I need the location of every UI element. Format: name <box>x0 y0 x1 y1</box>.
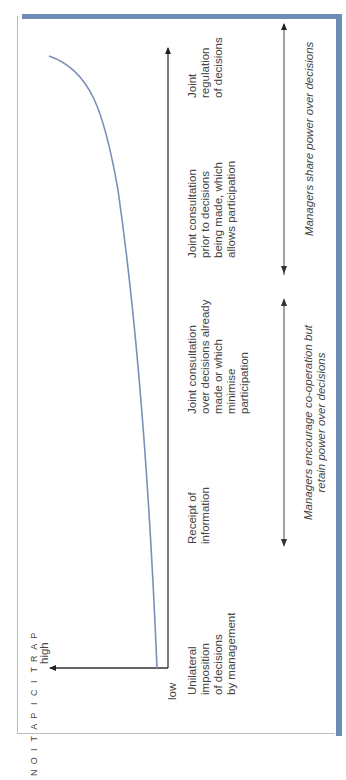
stage-unilateral: Unilateral imposition of decisions by ma… <box>186 613 238 695</box>
stage-line: regulation <box>199 37 212 98</box>
stage-line: of decisions <box>212 613 225 695</box>
range-line: Managers share power over decisions <box>303 42 316 236</box>
share-power-arrowhead-down <box>281 266 287 274</box>
stage-line: Joint consultation <box>186 300 199 414</box>
stage-line: Joint <box>186 37 199 98</box>
stage-line: over decisions already <box>199 300 212 414</box>
range-line: Managers encourage co-operation but <box>302 325 315 520</box>
stage-line: Unilateral <box>186 613 199 695</box>
range-share-power: Managers share power over decisions <box>303 42 316 236</box>
stage-line: by management <box>225 613 238 695</box>
stage-line: minimise <box>225 300 238 414</box>
axis-letter: N <box>29 766 40 780</box>
axis-high-label: high <box>38 642 51 664</box>
range-line: retain power over decisions <box>315 325 328 520</box>
stage-receipt: Receipt of information <box>186 487 212 544</box>
stage-line: being made, which <box>212 161 225 258</box>
stage-consult-before: Joint consultation prior to decisions be… <box>186 161 238 258</box>
stage-line: participation <box>238 300 251 414</box>
participation-curve <box>49 56 157 668</box>
stage-line: allows participation <box>225 161 238 258</box>
axis-low-label: low <box>166 683 179 700</box>
stage-line: prior to decisions <box>199 161 212 258</box>
stage-joint-regulation: Joint regulation of decisions <box>186 37 225 98</box>
stage-line: made or which <box>212 300 225 414</box>
stage-line: Joint consultation <box>186 161 199 258</box>
stage-line: of decisions <box>212 37 225 98</box>
stage-consult-after: Joint consultation over decisions alread… <box>186 300 251 414</box>
range-retain-power: Managers encourage co-operation but reta… <box>302 325 328 520</box>
stage-line: imposition <box>199 613 212 695</box>
stage-line: information <box>199 487 212 544</box>
stage-line: Receipt of <box>186 487 199 544</box>
